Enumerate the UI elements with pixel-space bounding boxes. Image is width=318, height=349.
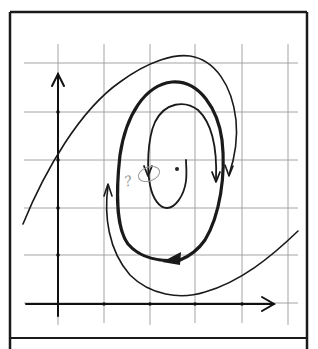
trajectory-thick-spiral (118, 82, 224, 261)
trajectory-outer-bottom (107, 186, 298, 296)
equilibrium-point (175, 167, 179, 171)
question-mark-annotation: ? (122, 172, 134, 190)
phase-portrait-diagram: ? (0, 0, 318, 349)
trajectory-inner-loop (148, 104, 216, 208)
trajectory-arrow-icon (162, 252, 181, 265)
